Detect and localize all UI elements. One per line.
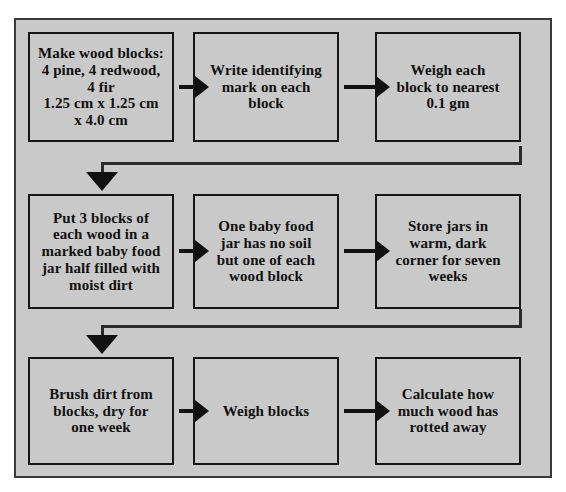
process-box-label: Put 3 blocks of each wood in a marked ba… — [41, 210, 160, 294]
arrow-head — [195, 400, 209, 422]
wrap-connector-row2-row3 — [16, 309, 550, 355]
process-box-step-8[interactable]: Weigh blocks — [193, 357, 339, 465]
process-box-label: Write identifying mark on each block — [210, 62, 322, 112]
process-box-label: Store jars in warm, dark corner for seve… — [395, 218, 500, 285]
process-box-label: Weigh each block to nearest 0.1 gm — [397, 62, 500, 112]
arrow-right-icon — [179, 400, 209, 422]
arrow-down-icon — [86, 335, 118, 354]
process-box-step-9[interactable]: Calculate how much wood has rotted away — [375, 357, 521, 465]
process-box-step-2[interactable]: Write identifying mark on each block — [193, 32, 339, 142]
flowchart-frame: Make wood blocks: 4 pine, 4 redwood, 4 f… — [14, 18, 552, 478]
flowchart-row-2: Put 3 blocks of each wood in a marked ba… — [16, 190, 550, 308]
arrow-head — [376, 240, 390, 262]
flowchart-page: Make wood blocks: 4 pine, 4 redwood, 4 f… — [0, 0, 566, 492]
process-box-step-3[interactable]: Weigh each block to nearest 0.1 gm — [375, 32, 521, 142]
arrow-down-icon — [86, 172, 118, 191]
arrow-shaft — [344, 409, 378, 413]
process-box-label: One baby food jar has no soil but one of… — [217, 218, 316, 285]
arrow-shaft — [344, 85, 378, 89]
process-box-step-1[interactable]: Make wood blocks: 4 pine, 4 redwood, 4 f… — [28, 32, 174, 142]
process-box-step-5[interactable]: One baby food jar has no soil but one of… — [193, 194, 339, 309]
arrow-head — [195, 240, 209, 262]
process-box-label: Calculate how much wood has rotted away — [398, 386, 499, 436]
process-box-label: Brush dirt from blocks, dry for one week — [49, 386, 153, 436]
arrow-right-icon — [344, 76, 391, 98]
arrow-right-icon — [344, 400, 391, 422]
process-box-step-7[interactable]: Brush dirt from blocks, dry for one week — [28, 357, 174, 465]
process-box-step-6[interactable]: Store jars in warm, dark corner for seve… — [375, 194, 521, 309]
arrow-head — [195, 76, 209, 98]
wrap-connector-row1-row2 — [16, 146, 550, 192]
arrow-head — [376, 76, 390, 98]
process-box-step-4[interactable]: Put 3 blocks of each wood in a marked ba… — [28, 194, 174, 309]
arrow-right-icon — [179, 76, 209, 98]
flowchart-row-1: Make wood blocks: 4 pine, 4 redwood, 4 f… — [16, 28, 550, 146]
process-box-label: Make wood blocks: 4 pine, 4 redwood, 4 f… — [38, 45, 164, 129]
arrow-shaft — [344, 249, 378, 253]
process-box-label: Weigh blocks — [223, 403, 310, 420]
flowchart-row-3: Brush dirt from blocks, dry for one week… — [16, 353, 550, 471]
arrow-right-icon — [344, 240, 391, 262]
arrow-head — [376, 400, 390, 422]
connector-horizontal-line — [101, 325, 522, 328]
arrow-right-icon — [179, 240, 209, 262]
connector-horizontal-line — [101, 162, 522, 165]
